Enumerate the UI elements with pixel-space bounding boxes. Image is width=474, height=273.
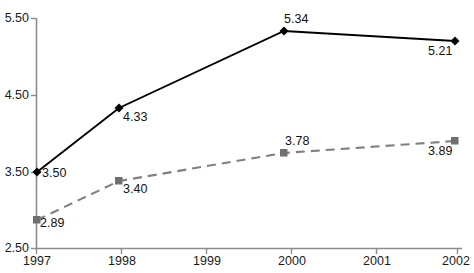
x-axis-tick-label-2002: 2002 (430, 254, 474, 268)
y-axis-tick-label-550: 5.50 (0, 11, 29, 25)
x-axis-tick-label-1999: 1999 (181, 254, 233, 268)
y-axis-tick-label-250: 2.50 (0, 241, 29, 255)
x-axis-tick-label-1998: 1998 (96, 254, 148, 268)
series-2-marker-2000 (280, 149, 288, 157)
data-label-series1-2000: 5.34 (284, 12, 308, 26)
series-1-line (37, 31, 455, 172)
data-label-series2-1998: 3.40 (123, 182, 147, 196)
series-1-marker-2000 (280, 27, 289, 36)
data-label-series2-2002: 3.89 (428, 144, 452, 158)
series-2-marker-1998 (115, 177, 123, 185)
y-axis-tick-label-450: 4.50 (0, 88, 29, 102)
x-axis-tick-label-2001: 2001 (351, 254, 403, 268)
x-axis-tick-label-2000: 2000 (266, 254, 318, 268)
data-label-series1-1997: 3.50 (42, 166, 66, 180)
series-2-line (37, 141, 455, 220)
data-label-series1-1998: 4.33 (123, 110, 147, 124)
y-axis-tick-label-350: 3.50 (0, 165, 29, 179)
data-label-series2-2000: 3.78 (285, 134, 309, 148)
data-label-series1-2002: 5.21 (428, 44, 452, 58)
data-label-series2-1997: 2.89 (40, 216, 64, 230)
x-axis-tick-label-1997: 1997 (11, 254, 63, 268)
